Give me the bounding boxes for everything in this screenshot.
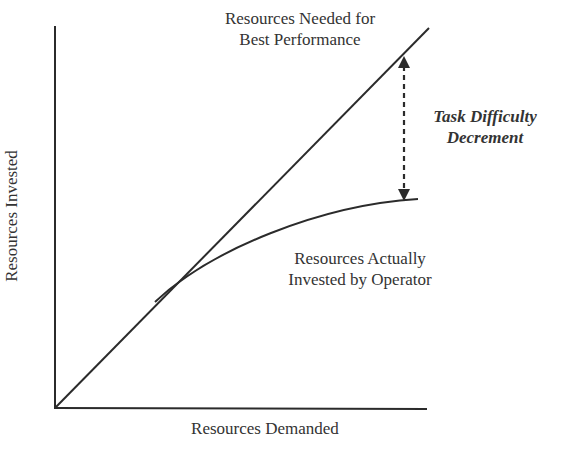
diagram-canvas: [0, 0, 572, 452]
resources-needed-line: [55, 28, 429, 408]
gap-label-1: Task Difficulty: [410, 106, 560, 127]
line-label-2: Best Performance: [190, 29, 410, 50]
line-label-1: Resources Needed for: [190, 8, 410, 29]
x-axis-label: Resources Demanded: [145, 418, 385, 439]
curve-label-2: Invested by Operator: [255, 269, 465, 290]
curve-label: Resources Actually Invested by Operator: [255, 248, 465, 290]
gap-label: Task Difficulty Decrement: [410, 106, 560, 148]
curve-label-1: Resources Actually: [255, 248, 465, 269]
x-axis: [54, 408, 427, 409]
gap-label-2: Decrement: [410, 127, 560, 148]
line-label: Resources Needed for Best Performance: [190, 8, 410, 50]
y-axis-label: Resources Invested: [2, 150, 22, 282]
